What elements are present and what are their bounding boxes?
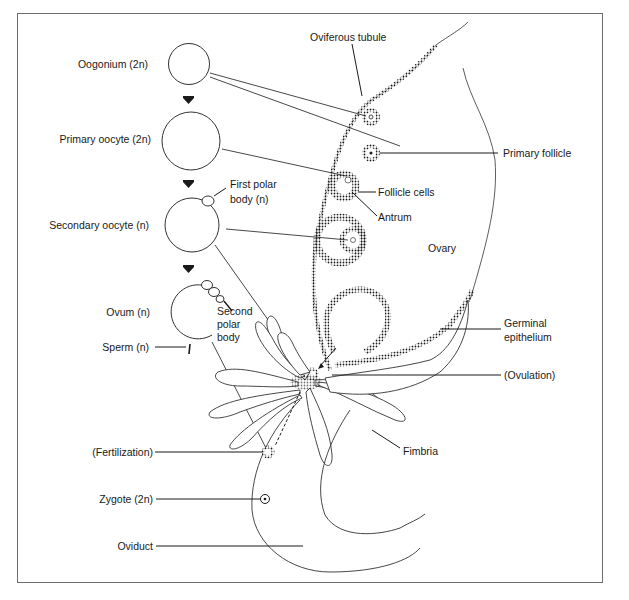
label-germinal-epithelium-line1: Germinal [504,317,547,330]
sperm-mark [189,344,190,354]
ruptured-follicle [326,289,388,352]
oogenesis-diagram [0,0,629,600]
label-fimbria: Fimbria [403,445,438,458]
label-ovum: Ovum (n) [60,306,150,319]
label-ovulation: (Ovulation) [504,369,555,382]
ovulation-arrow [307,348,336,379]
secondary-oocyte-cell [165,188,226,252]
primary-follicle [364,146,378,160]
label-secondary-oocyte: Secondary oocyte (n) [20,219,149,232]
label-ovary: Ovary [428,242,456,255]
label-fertilization: (Fertilization) [60,446,153,459]
vesicular-follicle [317,217,364,263]
label-follicle-cells: Follicle cells [378,186,435,199]
second-polar-body [216,296,224,303]
fimbriae-stipple [290,374,322,390]
label-second-polar-body-line3: body [217,331,240,344]
stage-arrow-1 [183,96,194,104]
label-leaders [155,44,501,546]
follicle-oviferous [364,110,378,124]
label-zygote: Zygote (2n) [60,493,153,506]
polar-body-b [209,288,220,297]
label-antrum: Antrum [378,211,412,224]
label-primary-follicle: Primary follicle [503,147,571,160]
first-polar-body [202,196,214,206]
label-oogonium: Oogonium (2n) [40,58,148,71]
label-germinal-epithelium-line2: epithelium [504,331,552,344]
stage-arrow-2 [183,180,194,188]
oogonium-cell [169,44,210,85]
label-primary-oocyte: Primary oocyte (2n) [30,133,151,146]
zygote-cell [261,495,270,504]
label-oviferous-tubule: Oviferous tubule [310,31,386,44]
label-sperm: Sperm (n) [60,341,149,354]
label-first-polar-body-line2: body (n) [230,193,269,206]
fimbriae [209,300,468,466]
label-oviduct: Oviduct [60,540,153,553]
label-first-polar-body-line1: First polar [230,178,277,191]
label-second-polar-body-line1: Second [217,305,253,318]
primary-oocyte-cell [162,112,220,170]
follicle-cells-growing [332,174,356,198]
stage-arrow-3 [183,265,194,273]
label-second-polar-body-line2: polar [217,318,240,331]
